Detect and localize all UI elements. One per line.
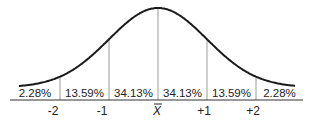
sd-tick-labels: -2-1X+1+2 (48, 104, 261, 118)
tick-label-sd-minus-1: -1 (97, 104, 108, 118)
tick-label-sd-plus-1: +1 (197, 104, 211, 118)
region-label-below-minus-2: 2.28% (19, 87, 52, 99)
tick-label-sd-plus-2: +2 (246, 104, 260, 118)
region-label-minus-1-to-mean: 34.13% (114, 87, 153, 99)
tick-label-mean: X (152, 104, 162, 118)
region-label-above-plus-2: 2.28% (263, 87, 296, 99)
region-label-plus-1-to-plus-2: 13.59% (212, 87, 251, 99)
normal-distribution-diagram: 2.28%13.59%34.13%34.13%13.59%2.28% -2-1X… (0, 0, 313, 125)
region-label-minus-2-to-minus-1: 13.59% (65, 87, 104, 99)
tick-label-sd-minus-2: -2 (48, 104, 59, 118)
bell-curve (19, 8, 295, 86)
region-label-mean-to-plus-1: 34.13% (163, 87, 202, 99)
